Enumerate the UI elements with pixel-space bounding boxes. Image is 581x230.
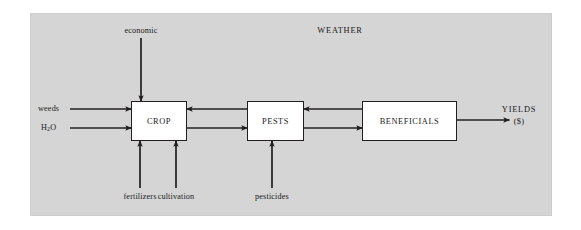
label-yields: YIELDS xyxy=(489,105,549,115)
node-pests-label: PESTS xyxy=(262,117,289,126)
node-beneficials: BENEFICIALS xyxy=(362,101,457,141)
label-pesticides: pesticides xyxy=(232,192,312,201)
figure-root: CROP PESTS BENEFICIALS WEATHER economic … xyxy=(0,0,581,230)
label-water: H2O xyxy=(41,123,56,132)
label-weeds: weeds xyxy=(38,104,59,113)
node-beneficials-label: BENEFICIALS xyxy=(380,117,440,126)
label-weather: WEATHER xyxy=(280,26,400,36)
label-yields-unit: ($) xyxy=(489,117,549,127)
node-pests: PESTS xyxy=(247,101,304,141)
label-water-oxygen: O xyxy=(50,123,56,132)
node-crop-label: CROP xyxy=(147,117,171,126)
label-economic: economic xyxy=(101,26,181,35)
label-cultivation: cultivation xyxy=(136,192,216,201)
node-crop: CROP xyxy=(131,101,187,141)
